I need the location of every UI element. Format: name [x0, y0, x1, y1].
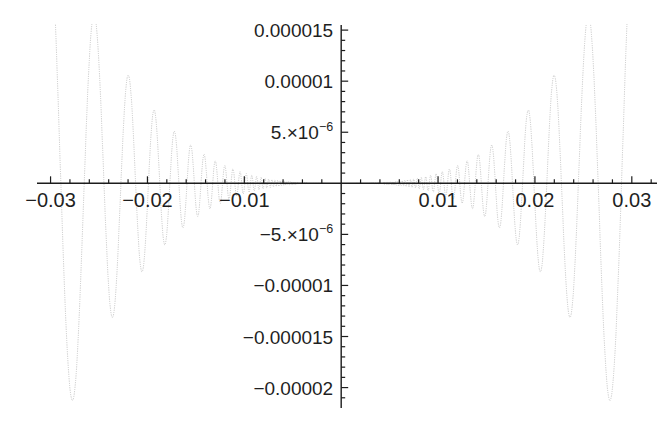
- x-tick-label: 0.03: [612, 189, 651, 211]
- x-tick-label: 0.02: [515, 189, 554, 211]
- x-tick-label: −0.02: [122, 189, 173, 211]
- y-tick-label: 0.00001: [265, 71, 334, 92]
- y-tick-label: −5.×10−6: [260, 222, 333, 245]
- function-plot-canvas: −0.03−0.02−0.010.010.020.030.0000150.000…: [0, 0, 666, 428]
- y-tick-label: 0.000015: [254, 20, 333, 41]
- y-tick-label: −0.000015: [243, 327, 333, 348]
- x-tick-label: −0.01: [219, 189, 270, 211]
- y-tick-label: 5.×10−6: [271, 120, 333, 143]
- x-tick-label: −0.03: [25, 189, 76, 211]
- y-tick-label: −0.00002: [253, 378, 333, 399]
- y-tick-label: −0.00001: [253, 275, 333, 296]
- x-tick-label: 0.01: [419, 189, 458, 211]
- plot-figure: −0.03−0.02−0.010.010.020.030.0000150.000…: [0, 0, 666, 428]
